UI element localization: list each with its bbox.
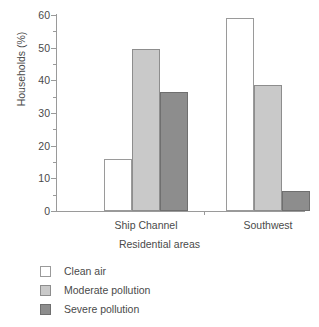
y-tick-major: [51, 80, 56, 81]
bar-southwest-clean-air: [226, 18, 254, 211]
y-tick-label: 30: [16, 108, 50, 118]
legend-swatch-moderate: [40, 285, 51, 296]
legend-label: Severe pollution: [64, 304, 139, 315]
y-tick-major: [51, 113, 56, 114]
legend-swatch-clean: [40, 266, 51, 277]
legend-label: Clean air: [64, 266, 106, 277]
x-axis-group-tick: [204, 211, 205, 215]
bar-southwest-severe-pollution: [282, 191, 310, 211]
y-tick-minor: [53, 162, 56, 163]
legend: Clean airModerate pollutionSevere pollut…: [40, 262, 280, 319]
y-tick-minor: [53, 31, 56, 32]
y-tick-major: [51, 15, 56, 16]
y-tick-label: 10: [16, 173, 50, 183]
bar-ship-channel-severe-pollution: [160, 92, 188, 211]
x-axis-line: [56, 211, 305, 212]
y-axis-tick-labels: 0102030405060: [10, 15, 50, 211]
x-category-label-ship-channel: Ship Channel: [86, 219, 206, 232]
y-tick-minor: [53, 64, 56, 65]
y-tick-major: [51, 146, 56, 147]
y-tick-major: [51, 211, 56, 212]
y-tick-major: [51, 48, 56, 49]
legend-swatch-severe: [40, 304, 51, 315]
y-tick-minor: [53, 97, 56, 98]
y-tick-label: 60: [16, 10, 50, 20]
plot-area: [56, 15, 304, 211]
y-tick-major: [51, 178, 56, 179]
bar-ship-channel-moderate-pollution: [132, 49, 160, 211]
y-tick-label: 50: [16, 43, 50, 53]
legend-item-moderate-pollution: Moderate pollution: [40, 281, 280, 300]
x-axis-title: Residential areas: [0, 238, 319, 250]
y-tick-minor: [53, 195, 56, 196]
bar-southwest-moderate-pollution: [254, 85, 282, 211]
legend-item-clean-air: Clean air: [40, 262, 280, 281]
legend-label: Moderate pollution: [64, 285, 150, 296]
legend-item-severe-pollution: Severe pollution: [40, 300, 280, 319]
x-category-label-southwest: Southwest: [208, 219, 319, 232]
y-tick-minor: [53, 129, 56, 130]
y-tick-label: 20: [16, 141, 50, 151]
y-tick-label: 40: [16, 75, 50, 85]
y-tick-label: 0: [16, 206, 50, 216]
bar-chart: Households (%) 0102030405060 Ship Channe…: [0, 0, 319, 327]
bar-ship-channel-clean-air: [104, 159, 132, 211]
